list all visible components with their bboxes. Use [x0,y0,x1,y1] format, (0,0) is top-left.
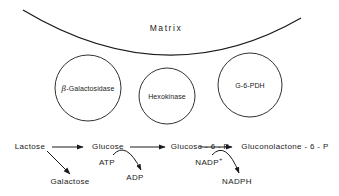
metabolite-glucose: Glucose [92,143,124,151]
cofactor-nadp-text: NADP [195,158,219,167]
metabolite-galactose: Galactose [50,178,89,186]
matrix-label: Matrix [150,24,183,33]
organelle-label-g-6-pdh: G-6-PDH [235,82,264,89]
organelle-label-beta-galactosidase: β-Galactosidase [62,85,115,93]
cofactor-atp: ATP [99,159,115,167]
cofactor-nadp-charge: + [219,156,223,162]
metabolite-gluconolactone-6-p: Gluconolactone - 6 - P [241,143,328,151]
metabolite-adp: ADP [126,174,144,182]
organelle-label-beta-galactosidase-text: -Galactosidase [66,85,114,92]
biochemical-pathway-figure: Matrix β-Galactosidase Hexokinase G-6-PD… [0,0,339,196]
cofactor-nadp: NADP+ [195,159,223,167]
metabolite-lactose: Lactose [15,143,45,151]
arrow-atp-to-adp [113,150,141,170]
arrow-lactose-to-galactose [47,151,70,174]
metabolite-glucose-6-p: Glucose - 6 - P [171,143,230,151]
organelle-label-hexokinase: Hexokinase [148,93,186,100]
metabolite-nadph: NADPH [222,178,252,186]
